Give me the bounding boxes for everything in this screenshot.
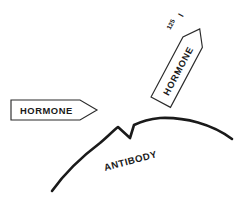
isotope-label-group: 125 I	[165, 10, 186, 33]
isotope-symbol: I	[176, 12, 185, 18]
diagram-canvas: HORMONE HORMONE 125 I ANTIBODY	[0, 0, 245, 200]
antibody-label: ANTIBODY	[103, 148, 159, 173]
radioimmunoassay-diagram: HORMONE HORMONE 125 I ANTIBODY	[0, 0, 245, 200]
isotope-mass-number: 125	[165, 17, 176, 30]
unlabeled-hormone-label: HORMONE	[20, 105, 73, 116]
